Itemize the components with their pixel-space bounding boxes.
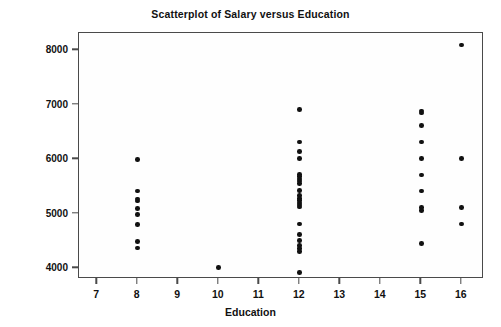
- y-tick-label: 5000: [24, 207, 68, 218]
- data-point: [297, 270, 302, 275]
- x-tick-label: 8: [122, 288, 152, 300]
- x-tick-mark: [460, 278, 461, 284]
- plot-area: [78, 32, 483, 278]
- x-tick-mark: [217, 278, 218, 284]
- x-tick-mark: [177, 278, 178, 284]
- data-point: [297, 107, 302, 112]
- x-tick-mark: [339, 278, 340, 284]
- x-tick-mark: [96, 278, 97, 284]
- data-point: [419, 111, 424, 116]
- data-point: [135, 222, 140, 227]
- x-tick-mark: [136, 278, 137, 284]
- data-point: [135, 199, 140, 204]
- x-tick-label: 10: [203, 288, 233, 300]
- data-point: [297, 232, 302, 237]
- y-tick-label: 4000: [24, 262, 68, 273]
- data-point: [135, 239, 140, 244]
- x-tick-label: 12: [284, 288, 314, 300]
- data-point: [135, 212, 140, 217]
- x-tick-mark: [420, 278, 421, 284]
- data-point: [419, 208, 424, 213]
- data-point: [297, 181, 302, 186]
- data-point: [135, 189, 140, 194]
- x-tick-label: 11: [243, 288, 273, 300]
- data-point: [419, 156, 424, 161]
- data-point: [297, 156, 302, 161]
- x-axis-label: Education: [0, 306, 501, 318]
- data-point: [419, 140, 424, 145]
- data-point: [419, 189, 424, 194]
- x-tick-mark: [379, 278, 380, 284]
- data-point: [135, 246, 140, 251]
- data-point: [459, 43, 464, 48]
- chart-title: Scatterplot of Salary versus Education: [0, 8, 501, 20]
- data-point: [297, 149, 302, 154]
- y-tick-label: 7000: [24, 98, 68, 109]
- scatterplot-figure: Scatterplot of Salary versus Education S…: [0, 0, 501, 327]
- data-point: [419, 241, 424, 246]
- data-point: [419, 123, 424, 128]
- data-point: [297, 238, 302, 243]
- x-tick-label: 14: [365, 288, 395, 300]
- data-point: [419, 173, 424, 178]
- x-tick-label: 13: [324, 288, 354, 300]
- data-point: [297, 249, 302, 254]
- x-tick-label: 15: [405, 288, 435, 300]
- x-tick-mark: [298, 278, 299, 284]
- x-tick-label: 7: [81, 288, 111, 300]
- data-point: [459, 205, 464, 210]
- x-tick-label: 16: [446, 288, 476, 300]
- data-point: [459, 156, 464, 161]
- data-point: [297, 205, 302, 210]
- data-point: [135, 206, 140, 211]
- data-point: [297, 188, 302, 193]
- data-point: [297, 140, 302, 145]
- data-point: [297, 222, 302, 227]
- data-points-layer: [79, 33, 482, 277]
- data-point: [459, 222, 464, 227]
- y-tick-label: 8000: [24, 44, 68, 55]
- data-point: [135, 157, 140, 162]
- y-tick-label: 6000: [24, 153, 68, 164]
- x-tick-mark: [258, 278, 259, 284]
- data-point: [216, 265, 221, 270]
- x-tick-label: 9: [162, 288, 192, 300]
